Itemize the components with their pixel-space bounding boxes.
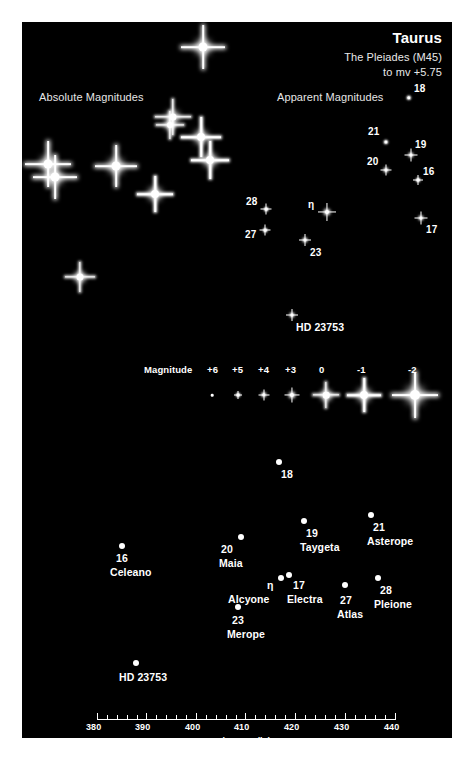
magnitude-sample-plus6 [211, 394, 214, 397]
scatter-label-17: 17 [293, 580, 305, 591]
axis-tick-minor [226, 715, 227, 719]
magnitude-tick-plus3: +3 [285, 365, 296, 375]
scatter-label-20: 20 [221, 544, 233, 555]
axis-tick-major [345, 713, 346, 720]
axis-tick-major [395, 713, 396, 720]
magnitude-legend-title: Magnitude [144, 365, 192, 375]
subtitle-object: The Pleiades (M45) [344, 52, 442, 63]
axis-tick-minor [176, 715, 177, 719]
label-19-apparent: 19 [415, 140, 426, 150]
scatter-point-16 [119, 543, 125, 549]
axis-tick-minor [117, 715, 118, 719]
axis-title-distance: Distance (ly) [216, 737, 271, 738]
axis-tick-minor [206, 715, 207, 719]
label-17-apparent: 17 [426, 225, 437, 235]
scatter-label-eta: η [267, 580, 274, 591]
scatter-label-18: 18 [281, 469, 293, 480]
scatter-label-alcyone: Alcyone [228, 594, 270, 605]
axis-tick-major [295, 713, 296, 720]
scatter-label-19: 19 [306, 528, 318, 539]
subtitle-limit: to mv +5.75 [383, 67, 442, 78]
axis-tick-minor [137, 715, 138, 719]
page-title: Taurus [393, 30, 443, 45]
scatter-label-21: 21 [373, 522, 385, 533]
label-21-apparent: 21 [368, 127, 379, 137]
label-16-apparent: 16 [423, 167, 434, 177]
axis-tick-minor [335, 715, 336, 719]
distance-axis-line [97, 719, 395, 720]
apparent-magnitudes-label: Apparent Magnitudes [277, 92, 383, 103]
scatter-point-20 [238, 534, 244, 540]
axis-tick-minor [255, 715, 256, 719]
scatter-label-asterope: Asterope [367, 536, 413, 547]
label-28-absolute: 28 [246, 197, 257, 207]
scatter-label-electra: Electra [287, 594, 323, 605]
axis-tick-minor [186, 715, 187, 719]
axis-tick-minor [385, 715, 386, 719]
axis-tick-minor [355, 715, 356, 719]
magnitude-tick-plus4: +4 [258, 365, 269, 375]
scatter-label-celeano: Celeano [110, 567, 152, 578]
axis-tick-minor [156, 715, 157, 719]
axis-tick-minor [375, 715, 376, 719]
scatter-label-taygeta: Taygeta [300, 542, 340, 553]
axis-tick-minor [107, 715, 108, 719]
label-23-apparent: 23 [310, 248, 321, 258]
magnitude-tick-plus5: +5 [232, 365, 243, 375]
scatter-point-21 [368, 512, 374, 518]
axis-tick-minor [275, 715, 276, 719]
scatter-label-27: 27 [340, 595, 352, 606]
axis-tick-minor [216, 715, 217, 719]
scatter-label-atlas: Atlas [337, 609, 363, 620]
star-glyph-21-apparent [384, 140, 387, 143]
star-glyph-18-apparent [407, 96, 410, 99]
sky-plot-canvas: Taurus The Pleiades (M45) to mv +5.75 Ab… [22, 22, 452, 738]
axis-tick-minor [365, 715, 366, 719]
label-hd23753-apparent: HD 23753 [296, 322, 344, 333]
label-18-apparent: 18 [414, 84, 425, 94]
scatter-point-28 [375, 575, 381, 581]
axis-label-390: 390 [135, 723, 150, 732]
axis-tick-minor [325, 715, 326, 719]
axis-label-380: 380 [86, 723, 101, 732]
axis-label-430: 430 [334, 723, 349, 732]
axis-tick-minor [236, 715, 237, 719]
axis-tick-minor [285, 715, 286, 719]
figure-root: Taurus The Pleiades (M45) to mv +5.75 Ab… [0, 0, 472, 770]
axis-label-440: 440 [384, 723, 399, 732]
magnitude-tick-0: 0 [319, 365, 324, 375]
magnitude-tick-minus1: -1 [357, 365, 366, 375]
magnitude-tick-plus6: +6 [207, 365, 218, 375]
scatter-label-16: 16 [116, 553, 128, 564]
axis-label-400: 400 [185, 723, 200, 732]
scatter-point-hd23753 [133, 660, 139, 666]
axis-label-410: 410 [234, 723, 249, 732]
axis-tick-minor [166, 715, 167, 719]
axis-tick-minor [265, 715, 266, 719]
scatter-point-19 [301, 518, 307, 524]
axis-tick-major [196, 713, 197, 720]
scatter-label-pleione: Pleione [374, 599, 412, 610]
axis-tick-minor [305, 715, 306, 719]
scatter-point-27 [342, 582, 348, 588]
axis-tick-major [97, 713, 98, 720]
axis-tick-minor [127, 715, 128, 719]
scatter-point-17 [286, 572, 292, 578]
scatter-label-merope: Merope [227, 629, 265, 640]
axis-label-420: 420 [284, 723, 299, 732]
label-27-absolute: 27 [245, 230, 256, 240]
scatter-point-18 [276, 459, 282, 465]
absolute-magnitudes-label: Absolute Magnitudes [39, 92, 144, 103]
scatter-point-eta [278, 575, 284, 581]
scatter-label-23: 23 [232, 615, 244, 626]
axis-tick-major [245, 713, 246, 720]
label-eta-absolute: η [308, 200, 314, 210]
axis-tick-minor [315, 715, 316, 719]
scatter-label-28: 28 [380, 585, 392, 596]
label-20-apparent: 20 [367, 157, 378, 167]
axis-tick-major [146, 713, 147, 720]
scatter-point-23 [235, 604, 241, 610]
scatter-label-maia: Maia [219, 558, 243, 569]
scatter-label-hd23753: HD 23753 [119, 672, 167, 683]
